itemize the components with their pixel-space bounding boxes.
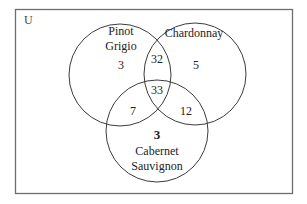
label-chardonnay: Chardonnay: [165, 26, 224, 40]
label-cabernet-line1: Cabernet: [135, 144, 179, 158]
label-cabernet-line2: Sauvignon: [131, 159, 182, 173]
count-cabernet-only: 3: [154, 127, 161, 142]
universe-label: U: [24, 13, 33, 27]
count-chardonnay-only: 5: [193, 58, 199, 72]
count-pinot-chardonnay: 32: [151, 52, 163, 66]
count-pinot-cabernet: 7: [130, 104, 136, 118]
label-pinot-line2: Grigio: [105, 39, 136, 53]
count-all-three: 33: [151, 83, 163, 97]
venn-diagram: U Pinot Grigio Chardonnay Cabernet Sauvi…: [0, 0, 307, 204]
count-chardonnay-cabernet: 12: [180, 104, 192, 118]
count-pinot-only: 3: [118, 58, 124, 72]
label-pinot-line1: Pinot: [108, 24, 134, 38]
